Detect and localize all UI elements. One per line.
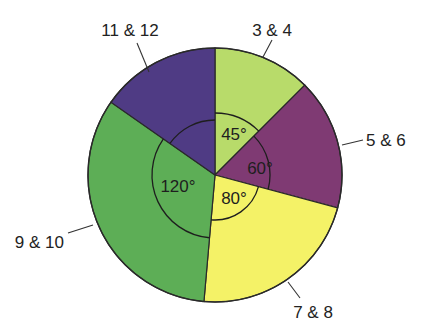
- leader-line-3-4: [263, 40, 272, 57]
- pie-chart: 45°60°80°120° 3 & 45 & 67 & 89 & 1011 & …: [0, 0, 427, 327]
- leader-line-7-8: [288, 282, 300, 298]
- angle-label-5-6: 60°: [247, 159, 273, 178]
- slice-label-7-8: 7 & 8: [293, 303, 333, 322]
- slice-label-9-10: 9 & 10: [15, 233, 64, 252]
- angle-label-3-4: 45°: [221, 125, 247, 144]
- slice-label-5-6: 5 & 6: [366, 131, 406, 150]
- slice-label-3-4: 3 & 4: [252, 21, 292, 40]
- angle-label-7-8: 80°: [221, 189, 247, 208]
- angle-label-9-10: 120°: [160, 177, 195, 196]
- leader-line-11-12: [137, 43, 149, 72]
- leader-line-5-6: [342, 140, 363, 145]
- slice-label-11-12: 11 & 12: [101, 21, 158, 40]
- leader-line-9-10: [68, 225, 93, 233]
- pie-slices: [88, 48, 342, 302]
